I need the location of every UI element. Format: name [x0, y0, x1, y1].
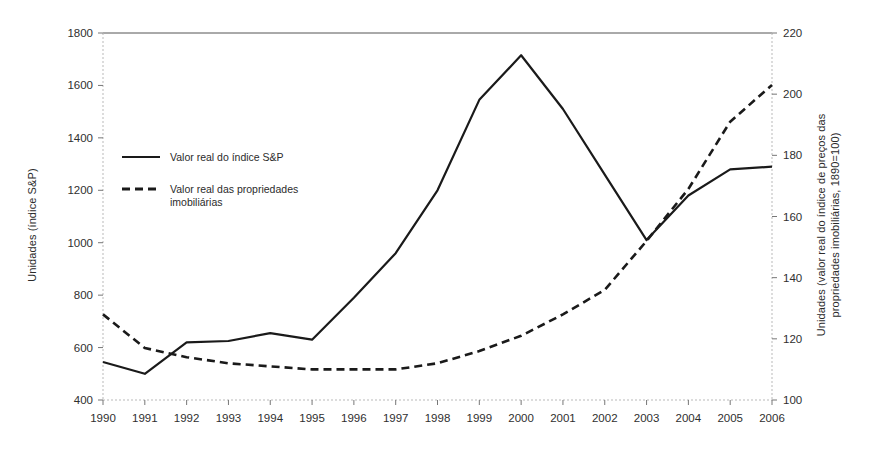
- x-tick-label: 1994: [257, 412, 283, 424]
- x-tick-label: 1991: [132, 412, 158, 424]
- y-tick-label-right: 100: [783, 394, 802, 406]
- y-tick-label-left: 1200: [67, 184, 93, 196]
- x-tick-label: 1992: [174, 412, 200, 424]
- legend-label-2: Valor real das propriedades: [170, 183, 298, 195]
- x-tick-label: 2002: [592, 412, 618, 424]
- chart-figure: Unidades (índice S&P) Unidades (valor re…: [0, 0, 886, 450]
- y-tick-label-left: 1600: [67, 79, 93, 91]
- x-tick-label: 2000: [508, 412, 534, 424]
- x-tick-label: 1993: [216, 412, 242, 424]
- y-tick-label-left: 600: [74, 342, 93, 354]
- y-tick-label-right: 200: [783, 88, 802, 100]
- y-tick-label-right: 120: [783, 333, 802, 345]
- y-tick-label-left: 1800: [67, 27, 93, 39]
- x-tick-label: 1990: [90, 412, 116, 424]
- y-tick-label-left: 1000: [67, 237, 93, 249]
- x-tick-label: 2005: [717, 412, 743, 424]
- x-tick-label: 1996: [341, 412, 367, 424]
- y-tick-label-right: 180: [783, 149, 802, 161]
- y-tick-label-right: 160: [783, 211, 802, 223]
- x-tick-label: 1998: [425, 412, 451, 424]
- series-line-1: [103, 55, 772, 374]
- y-tick-label-right: 140: [783, 272, 802, 284]
- legend-label-2b: imobiliárias: [170, 196, 223, 208]
- y-tick-label-left: 400: [74, 394, 93, 406]
- y-tick-label-left: 1400: [67, 132, 93, 144]
- x-tick-label: 2003: [634, 412, 660, 424]
- chart-plot-area: 4006008001000120014001600180010012014016…: [0, 0, 886, 450]
- y-tick-label-left: 800: [74, 289, 93, 301]
- x-tick-label: 1995: [299, 412, 325, 424]
- series-line-2: [103, 85, 772, 369]
- x-tick-label: 1997: [383, 412, 409, 424]
- x-tick-label: 2001: [550, 412, 576, 424]
- y-tick-label-right: 220: [783, 27, 802, 39]
- x-tick-label: 2006: [759, 412, 785, 424]
- legend-label-1: Valor real do índice S&P: [170, 151, 284, 163]
- x-tick-label: 2004: [676, 412, 702, 424]
- x-tick-label: 1999: [467, 412, 493, 424]
